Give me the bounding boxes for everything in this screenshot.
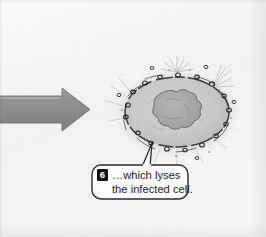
callout-pointer-seam <box>143 164 151 168</box>
process-arrow <box>0 88 90 131</box>
illustration-canvas: 6 …which lyses the infected cell. <box>0 0 266 237</box>
burst-rays-top <box>161 57 193 72</box>
figure-panel: 6 …which lyses the infected cell. <box>0 0 266 237</box>
callout-badge-number: 6 <box>100 169 105 180</box>
burst-rays-upper-right <box>213 66 234 87</box>
callout-line-2: the infected cell. <box>112 183 193 195</box>
callout-line-1: …which lyses <box>112 169 181 181</box>
infected-cell <box>107 57 239 166</box>
